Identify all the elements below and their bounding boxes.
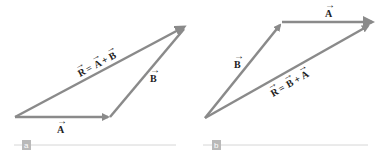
vector-b-in-panel-b [205,25,280,118]
svg-text:→: → [57,115,67,126]
svg-text:→: → [234,50,244,61]
equation-r-panel-b: R → = B → + A → [265,60,313,99]
panel-b: A → B → R → = B → + A → b [203,0,372,150]
vector-b-in-panel-a [110,29,184,117]
label-b-panel-a: B → [150,64,160,84]
svg-text:a: a [24,141,29,150]
label-a-panel-b: A → [325,0,335,19]
svg-text:→: → [150,64,160,75]
svg-text:→: → [325,0,335,10]
panel-a: A → B → R → = A → + B → a [14,27,184,150]
svg-text:b: b [214,141,219,150]
vector-addition-figure: A → B → R → = A → + B → a A → B [0,0,381,161]
svg-text:→: → [103,41,117,55]
label-b-panel-b: B → [234,50,244,70]
label-a-panel-a: A → [57,115,67,135]
